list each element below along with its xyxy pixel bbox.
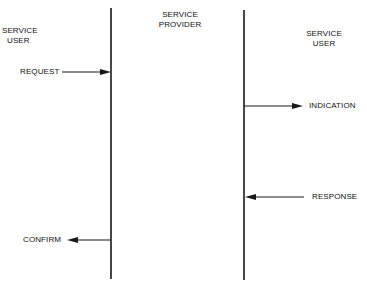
request-arrow — [62, 69, 111, 75]
header-line: SERVICE — [2, 26, 38, 36]
header-line: USER — [304, 39, 344, 49]
left-service-user-header: SERVICE USER — [2, 26, 38, 46]
header-line: USER — [2, 36, 38, 46]
right-service-user-header: SERVICE USER — [304, 29, 344, 49]
confirm-label: CONFIRM — [23, 235, 61, 245]
indication-arrow — [244, 103, 303, 109]
header-line: SERVICE — [304, 29, 344, 39]
confirm-arrow — [67, 237, 111, 243]
indication-label: INDICATION — [309, 101, 356, 111]
header-line: SERVICE — [150, 10, 210, 20]
response-label: RESPONSE — [312, 192, 357, 202]
header-line: PROVIDER — [150, 20, 210, 30]
service-provider-header: SERVICE PROVIDER — [150, 10, 210, 30]
request-label: REQUEST — [20, 67, 59, 77]
response-arrow — [245, 194, 304, 200]
